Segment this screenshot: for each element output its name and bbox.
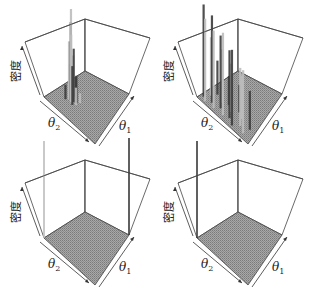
figure-canvas: 密度θ2θ1密度θ2θ1密度θ2θ1密度θ2θ1 <box>0 0 317 298</box>
density-bar <box>220 36 222 109</box>
theta1-axis-label: θ1 <box>272 119 284 135</box>
density-axis-label: 密度 <box>9 201 23 223</box>
panel-bottom-right: 密度θ2θ1 <box>162 141 303 287</box>
theta2-axis-label: θ2 <box>201 116 213 132</box>
theta2-arrow-icon <box>238 138 242 142</box>
density-bar <box>222 33 224 115</box>
theta2-axis-label: θ2 <box>48 116 60 132</box>
density-bar <box>43 141 45 238</box>
theta2-arrow-icon <box>85 138 89 142</box>
density-bar <box>128 138 130 235</box>
theta1-axis-label: θ1 <box>119 260 131 276</box>
theta2-arrow-icon <box>238 279 242 283</box>
density-axis-label: 密度 <box>9 60 23 82</box>
theta2-arrow-icon <box>85 279 89 283</box>
panel-bottom-left: 密度θ2θ1 <box>9 138 150 287</box>
density-bar <box>239 68 241 126</box>
panel-top-left: 密度θ2θ1 <box>9 9 150 146</box>
density-bar <box>196 141 198 238</box>
density-bar <box>79 93 81 103</box>
density-bar <box>228 50 230 118</box>
density-bar <box>213 31 215 109</box>
density-bar <box>216 61 218 95</box>
density-axis-label: 密度 <box>162 60 176 82</box>
density-axis-label: 密度 <box>162 201 176 223</box>
plot-panels: 密度θ2θ1密度θ2θ1密度θ2θ1密度θ2θ1 <box>9 4 303 287</box>
theta1-axis-label: θ1 <box>119 119 131 135</box>
density-bar <box>75 88 77 105</box>
density-bar <box>71 66 73 105</box>
theta1-axis-label: θ1 <box>272 260 284 276</box>
theta2-axis-label: θ2 <box>48 257 60 273</box>
density-bar <box>249 91 251 130</box>
density-bar <box>64 85 66 100</box>
density-bar <box>231 50 233 126</box>
density-bar <box>242 70 244 133</box>
panel-top-right: 密度θ2θ1 <box>162 4 303 146</box>
theta2-axis-label: θ2 <box>201 257 213 273</box>
